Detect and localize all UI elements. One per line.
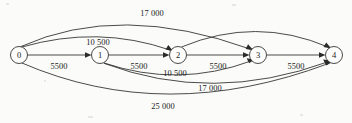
node-3: 3 xyxy=(250,47,267,64)
network-diagram-figure: 17 000 10 500 5500 5500 5500 5500 10 500… xyxy=(0,0,352,123)
node-4: 4 xyxy=(326,47,343,64)
edge-0-to-3 xyxy=(21,25,253,50)
edge-3-to-4-arrowhead xyxy=(319,52,326,57)
node-1: 1 xyxy=(92,47,109,64)
edge-1-to-2 xyxy=(109,52,170,57)
edge-label-17000-low: 17 000 xyxy=(198,84,222,93)
edge-0-to-1-arrowhead xyxy=(85,52,92,57)
edge-label-5500-3-4: 5500 xyxy=(287,62,304,71)
edge-label-10500-mid: 10 500 xyxy=(163,69,187,78)
edge-label-5500-0-1: 5500 xyxy=(50,62,67,71)
edge-3-to-4 xyxy=(267,52,326,57)
node-1-label: 1 xyxy=(98,50,102,60)
edge-label-5500-1-2: 5500 xyxy=(130,62,147,71)
node-0: 0 xyxy=(11,47,28,64)
edge-label-17000-top: 17 000 xyxy=(140,9,164,18)
edge-0-to-3-path xyxy=(21,25,250,49)
scan-speck xyxy=(300,114,303,116)
scan-speck xyxy=(88,116,93,118)
node-2: 2 xyxy=(170,47,187,64)
node-3-label: 3 xyxy=(256,50,260,60)
edge-0-to-1 xyxy=(28,52,92,57)
scan-speck xyxy=(6,3,9,5)
edge-1-to-2-arrowhead xyxy=(163,52,170,57)
graph-canvas: 17 000 10 500 5500 5500 5500 5500 10 500… xyxy=(0,0,352,123)
edge-2-to-4 xyxy=(182,31,331,48)
edge-2-to-4-path xyxy=(182,31,328,47)
edge-label-10500-top: 10 500 xyxy=(86,38,110,47)
edge-label-5500-2-3: 5500 xyxy=(209,62,226,71)
scan-speck xyxy=(44,80,46,82)
edge-label-25000-bottom: 25 000 xyxy=(151,102,175,111)
edge-2-to-3 xyxy=(187,52,250,57)
scan-speck xyxy=(232,4,236,6)
node-2-label: 2 xyxy=(176,50,180,60)
node-0-label: 0 xyxy=(17,50,21,60)
edge-2-to-3-arrowhead xyxy=(243,52,250,57)
